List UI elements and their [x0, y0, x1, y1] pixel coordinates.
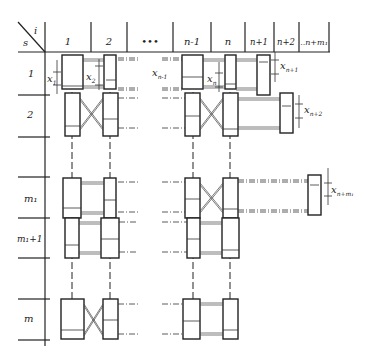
column-header-ellipsis: •••	[141, 36, 159, 47]
label-xn+2: xn+2	[304, 104, 323, 117]
row-labels: 1 2 m₁ m₁+1 m	[17, 68, 42, 324]
column-header-n-1: n-1	[184, 36, 200, 47]
column-header-n+1: n+1	[250, 37, 268, 47]
label-xn+1: xn+1	[280, 60, 298, 73]
column-header-2: 2	[105, 36, 112, 47]
label-xn: xn	[207, 73, 217, 86]
label-xn+m1: xn+m₁	[331, 184, 354, 197]
column-header-n+2: n+2	[277, 37, 295, 47]
label-x2: x2	[86, 71, 96, 84]
column-header-1: 1	[65, 36, 71, 47]
row-label-m1: m₁	[24, 193, 38, 204]
row-label-m1+1: m₁+1	[17, 234, 42, 244]
label-xn-1: xn-1	[152, 67, 167, 80]
column-header-n+m1: ..n+m₁	[300, 38, 328, 47]
row-m1-plus-1-gears	[65, 218, 239, 258]
column-header-n: n	[225, 36, 231, 47]
row-label-1: 1	[28, 68, 34, 79]
row-label-2: 2	[26, 109, 33, 120]
header: i s 1 2 ••• n-1 n n+1 n+2 ..n+m₁	[23, 25, 328, 48]
row-2-gears	[65, 93, 293, 136]
row-m1-gears	[63, 175, 321, 218]
gear-shift-matrix-diagram: i s 1 2 ••• n-1 n n+1 n+2 ..n+m₁ 1 2 m₁ …	[0, 0, 366, 362]
row-m-gears	[61, 299, 238, 339]
corner-label-i: i	[34, 25, 37, 36]
row-label-m: m	[24, 313, 33, 324]
corner-label-s: s	[23, 37, 28, 48]
label-x1: x1	[47, 73, 56, 86]
